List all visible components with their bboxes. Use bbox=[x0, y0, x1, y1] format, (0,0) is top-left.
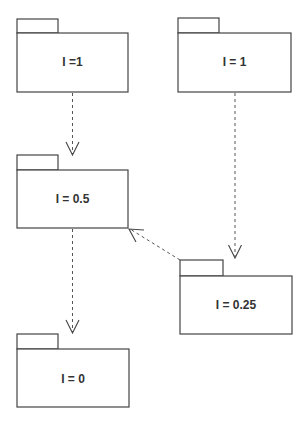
dependency-d-to-c[interactable] bbox=[129, 229, 180, 260]
package-d-label: I = 0.25 bbox=[216, 298, 257, 312]
package-e-tab bbox=[17, 334, 58, 349]
package-c-tab bbox=[17, 155, 58, 170]
package-a-label: I =1 bbox=[62, 55, 83, 69]
package-e[interactable]: I = 0 bbox=[17, 334, 129, 407]
package-c-label: I = 0.5 bbox=[56, 192, 90, 206]
package-c[interactable]: I = 0.5 bbox=[17, 155, 128, 228]
dependency-a-to-c[interactable] bbox=[66, 93, 79, 155]
package-e-label: I = 0 bbox=[61, 372, 85, 386]
dependency-d-to-c-line bbox=[130, 229, 180, 260]
package-b-tab bbox=[178, 18, 219, 33]
dependency-b-to-d[interactable] bbox=[229, 93, 242, 258]
package-diagram: I =1 I = 1 I = 0.5 I = 0.25 I = 0 bbox=[0, 0, 307, 424]
package-d[interactable]: I = 0.25 bbox=[180, 260, 292, 334]
package-d-tab bbox=[180, 260, 223, 276]
dependency-c-to-e[interactable] bbox=[66, 229, 79, 333]
dependency-d-to-c-arrowhead bbox=[129, 229, 144, 242]
package-b[interactable]: I = 1 bbox=[178, 18, 291, 92]
package-a-tab bbox=[17, 19, 58, 33]
package-a[interactable]: I =1 bbox=[17, 19, 128, 92]
package-b-label: I = 1 bbox=[223, 55, 247, 69]
